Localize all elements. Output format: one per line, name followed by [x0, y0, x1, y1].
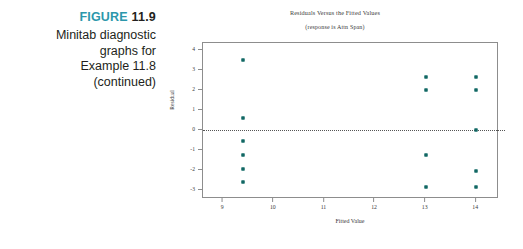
plot-area — [203, 43, 497, 197]
data-point — [475, 186, 478, 189]
zero-reference-line — [203, 130, 497, 131]
data-point — [424, 89, 427, 92]
x-axis-tick-label: 9 — [221, 204, 224, 210]
data-point — [475, 170, 478, 173]
x-axis-tick: 14 — [472, 198, 478, 210]
x-axis-title: Fitted Value — [202, 218, 498, 224]
x-axis-tick: 12 — [371, 198, 377, 210]
y-axis-tick-label: 4 — [192, 46, 195, 52]
caption-line-1: Minitab diagnostic — [8, 28, 156, 44]
data-point — [475, 89, 478, 92]
chart-subtitle: (response is Attn Span) — [150, 24, 520, 30]
x-axis-tick-mark — [424, 198, 425, 202]
y-axis-tick-label: -1 — [190, 146, 195, 152]
data-point — [242, 117, 245, 120]
data-point — [242, 154, 245, 157]
y-axis-tick-label: -3 — [190, 186, 195, 192]
data-point — [475, 76, 478, 79]
x-axis-tick-mark — [475, 198, 476, 202]
x-axis-ticks: 91011121314 — [202, 198, 498, 220]
data-point — [242, 181, 245, 184]
figure-caption: FIGURE 11.9 Minitab diagnostic graphs fo… — [8, 10, 156, 90]
x-axis-tick-label: 13 — [422, 204, 428, 210]
data-point — [475, 129, 478, 132]
figure-panel: FIGURE 11.9 Minitab diagnostic graphs fo… — [0, 0, 523, 249]
y-axis-tick-label: 2 — [192, 86, 195, 92]
x-axis-tick-mark — [323, 198, 324, 202]
x-axis-tick-label: 12 — [371, 204, 377, 210]
data-point — [242, 168, 245, 171]
x-axis-tick-mark — [272, 198, 273, 202]
residual-scatter-chart: Residuals Versus the Fitted Values (resp… — [150, 4, 520, 246]
y-axis-title: Residual — [169, 90, 175, 110]
x-axis-tick: 10 — [270, 198, 276, 210]
data-point — [242, 140, 245, 143]
plot-frame — [202, 42, 498, 198]
data-point — [424, 76, 427, 79]
x-axis-tick: 9 — [221, 198, 224, 210]
y-axis-ticks: 43210-1-2-3 — [150, 4, 202, 198]
data-point — [424, 186, 427, 189]
y-axis-tick-label: 0 — [192, 126, 195, 132]
figure-label-word: FIGURE — [79, 10, 127, 24]
caption-line-3: Example 11.8 — [8, 59, 156, 75]
data-point — [424, 154, 427, 157]
chart-title: Residuals Versus the Fitted Values — [150, 9, 520, 16]
y-axis-tick-label: 3 — [192, 66, 195, 72]
x-axis-tick-mark — [222, 198, 223, 202]
x-axis-tick: 11 — [321, 198, 327, 210]
caption-line-2: graphs for — [8, 44, 156, 60]
data-point — [242, 59, 245, 62]
x-axis-tick-label: 11 — [321, 204, 327, 210]
x-axis-tick: 13 — [422, 198, 428, 210]
x-axis-tick-mark — [374, 198, 375, 202]
x-axis-tick-label: 14 — [472, 204, 478, 210]
y-axis-tick-label: -2 — [190, 166, 195, 172]
y-axis-tick-label: 1 — [192, 106, 195, 112]
x-axis-tick-label: 10 — [270, 204, 276, 210]
caption-line-4: (continued) — [8, 75, 156, 91]
figure-label: FIGURE 11.9 — [8, 10, 156, 25]
